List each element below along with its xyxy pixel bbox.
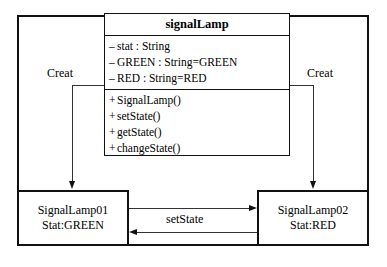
instance-box-signallamp01[interactable]: SignalLamp01 Stat:GREEN (17, 190, 129, 246)
return-line (135, 232, 257, 233)
visibility-marker: – (109, 38, 117, 54)
visibility-marker: + (109, 124, 117, 140)
class-method: +changeState() (109, 140, 289, 156)
class-methods-compartment: +SignalLamp() +setState() +getState() +c… (105, 90, 289, 159)
setstate-line (129, 208, 251, 209)
method-text: changeState() (117, 142, 180, 154)
class-attribute: –stat : String (109, 38, 289, 54)
class-method: +getState() (109, 124, 289, 140)
class-method: +SignalLamp() (109, 92, 289, 108)
class-name-label: signalLamp (105, 14, 289, 36)
method-text: setState() (117, 110, 160, 122)
creat-left-vertical-segment (72, 85, 73, 182)
return-arrowhead (129, 229, 137, 235)
visibility-marker: + (109, 140, 117, 156)
creat-left-horizontal-segment (72, 85, 106, 86)
edge-label-setstate: setState (164, 212, 205, 227)
edge-label-creat-right: Creat (305, 66, 335, 81)
method-text: getState() (117, 126, 162, 138)
class-method: +setState() (109, 108, 289, 124)
instance-box-signallamp02[interactable]: SignalLamp02 Stat:RED (257, 190, 369, 246)
instance-state-label: Stat:GREEN (42, 218, 104, 233)
setstate-arrowhead (249, 205, 257, 211)
instance-name-label: SignalLamp01 (38, 203, 109, 218)
visibility-marker: + (109, 92, 117, 108)
creat-right-vertical-segment (313, 85, 314, 182)
creat-left-arrowhead (69, 181, 75, 189)
visibility-marker: – (109, 54, 117, 70)
class-attribute: –RED : String=RED (109, 70, 289, 86)
attribute-text: stat : String (117, 40, 170, 52)
edge-label-creat-left: Creat (45, 66, 75, 81)
visibility-marker: – (109, 70, 117, 86)
attribute-text: RED : String=RED (117, 72, 207, 84)
uml-diagram-canvas: signalLamp –stat : String –GREEN : Strin… (0, 0, 387, 267)
class-attributes-compartment: –stat : String –GREEN : String=GREEN –RE… (105, 36, 289, 90)
creat-right-arrowhead (310, 181, 316, 189)
instance-name-label: SignalLamp02 (278, 203, 349, 218)
class-box-signallamp[interactable]: signalLamp –stat : String –GREEN : Strin… (104, 13, 290, 156)
creat-right-horizontal-segment (289, 85, 314, 86)
attribute-text: GREEN : String=GREEN (117, 56, 237, 68)
instance-state-label: Stat:RED (290, 218, 336, 233)
class-attribute: –GREEN : String=GREEN (109, 54, 289, 70)
visibility-marker: + (109, 108, 117, 124)
method-text: SignalLamp() (117, 94, 181, 106)
